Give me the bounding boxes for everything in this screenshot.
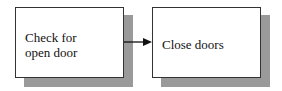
arrowhead-icon: [143, 38, 152, 46]
edge-check-to-close: [0, 0, 282, 91]
